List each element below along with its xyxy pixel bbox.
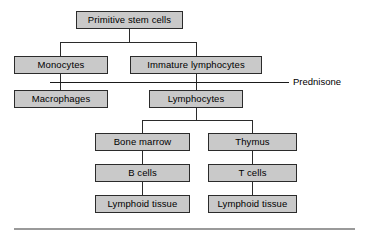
connector-to-thymus [252, 120, 253, 133]
node-label: Immature lymphocytes [147, 60, 245, 70]
prednisone-line [50, 82, 289, 83]
node-label: Monocytes [38, 60, 85, 70]
node-label: Bone marrow [114, 137, 172, 147]
connector-lymphocytes-down [196, 108, 197, 120]
diagram-canvas: Prednisone Primitive stem cells Monocyte… [0, 0, 368, 239]
node-monocytes[interactable]: Monocytes [14, 56, 108, 74]
node-label: Lymphoid tissue [108, 199, 178, 209]
node-label: Lymphocytes [168, 94, 225, 104]
connector-stem-down [129, 29, 130, 42]
node-bone-marrow[interactable]: Bone marrow [95, 133, 190, 151]
node-label: Macrophages [32, 94, 91, 104]
node-lymphocytes[interactable]: Lymphocytes [149, 90, 243, 108]
connector-to-immature-lymphocytes [196, 42, 197, 56]
connector-t-cells-to-lymphoid [252, 182, 253, 195]
connector-to-bone-marrow [142, 120, 143, 133]
node-label: B cells [128, 168, 157, 178]
prednisone-label: Prednisone [293, 77, 341, 87]
connector-stem-bus [60, 42, 197, 43]
node-primitive-stem-cells[interactable]: Primitive stem cells [76, 11, 183, 29]
node-label: Primitive stem cells [88, 15, 171, 25]
connector-to-monocytes [60, 42, 61, 56]
connector-thymus-to-t-cells [252, 151, 253, 164]
footer-divider [14, 228, 355, 230]
node-label: Thymus [235, 137, 269, 147]
connector-b-cells-to-lymphoid [142, 182, 143, 195]
connector-lymphocytes-bus [142, 120, 253, 121]
node-t-cells[interactable]: T cells [208, 164, 297, 182]
node-lymphoid-tissue-b[interactable]: Lymphoid tissue [95, 195, 190, 213]
node-label: Lymphoid tissue [218, 199, 288, 209]
node-label: T cells [239, 168, 267, 178]
node-thymus[interactable]: Thymus [208, 133, 297, 151]
node-lymphoid-tissue-t[interactable]: Lymphoid tissue [208, 195, 297, 213]
connector-bone-marrow-to-b-cells [142, 151, 143, 164]
node-b-cells[interactable]: B cells [95, 164, 190, 182]
node-immature-lymphocytes[interactable]: Immature lymphocytes [130, 56, 262, 74]
node-macrophages[interactable]: Macrophages [14, 90, 108, 108]
